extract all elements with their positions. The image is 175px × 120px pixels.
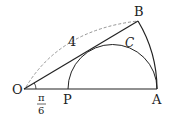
angle-numerator: π [38, 92, 45, 103]
angle-mark [34, 83, 36, 89]
label-O: O [12, 82, 23, 97]
label-P: P [63, 92, 72, 107]
label-length-4: 4 [68, 34, 76, 49]
angle-denominator: 6 [38, 105, 44, 116]
semicircle-C [68, 45, 157, 90]
label-C: C [125, 36, 134, 50]
label-A: A [151, 92, 162, 107]
segment-OB [24, 21, 138, 89]
sector-diagram: O A B P C 4 π 6 [0, 0, 175, 120]
label-B: B [134, 4, 144, 19]
